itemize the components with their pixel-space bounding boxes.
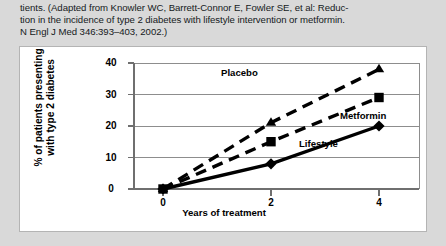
series-metformin [158,93,383,194]
chart-plot-area: 40 30 20 10 0 0 2 4 % of patients presen… [20,47,428,233]
figure-caption: tients. (Adapted from Knowler WC, Barret… [0,0,446,44]
caption-line-3: N Engl J Med 346:393–403, 2002.) [20,26,432,38]
series-label-lifestyle: Lifestyle [299,138,338,149]
series-label-metformin: Metformin [340,110,386,121]
y-tick-40: 40 [98,57,124,68]
series-label-placebo: Placebo [221,67,258,78]
y-axis-title-line-2: with type 2 diabetes [45,42,57,172]
y-axis-title: % of patients presenting with type 2 dia… [33,42,58,172]
series-placebo [158,64,384,192]
figure-page: tients. (Adapted from Knowler WC, Barret… [0,0,446,246]
caption-line-2: tion in the incidence of type 2 diabetes… [20,14,432,26]
y-tick-10: 10 [98,152,124,163]
y-axis-title-line-1: % of patients presenting [33,42,45,172]
x-axis-title: Years of treatment [20,207,428,218]
y-tick-20: 20 [98,120,124,131]
caption-line-1: tients. (Adapted from Knowler WC, Barret… [20,2,432,14]
chart-panel: 40 30 20 10 0 0 2 4 % of patients presen… [19,46,427,232]
y-tick-0: 0 [98,183,124,194]
axis-lines [128,63,419,196]
y-tick-30: 30 [98,89,124,100]
